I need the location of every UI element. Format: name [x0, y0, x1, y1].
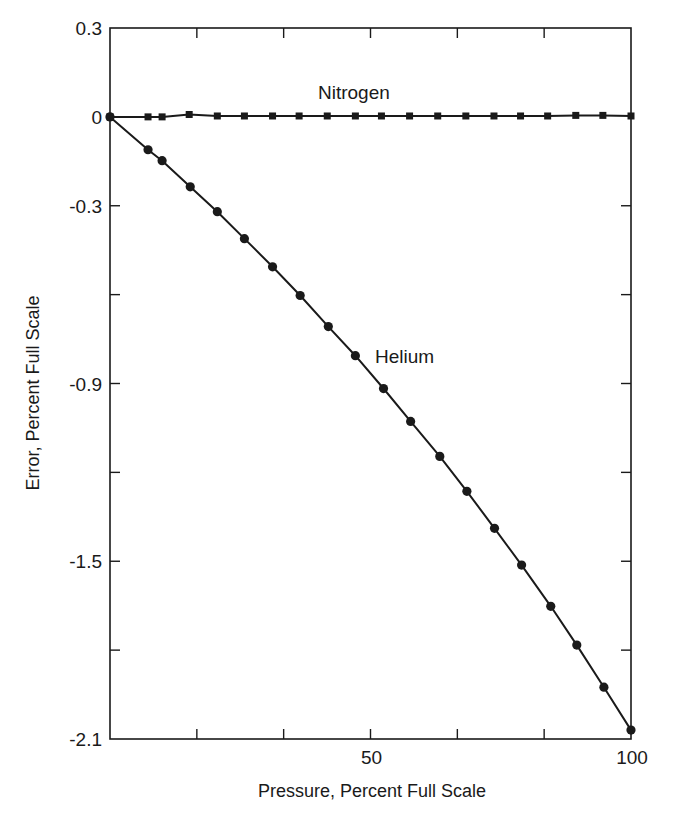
square-marker-icon [434, 112, 441, 119]
square-marker-icon [352, 112, 359, 119]
x-tick-label: 100 [616, 747, 648, 768]
square-marker-icon [490, 112, 497, 119]
square-marker-icon [406, 112, 413, 119]
square-marker-icon [462, 112, 469, 119]
square-marker-icon [214, 112, 221, 119]
circle-marker-icon [186, 182, 195, 191]
square-marker-icon [241, 112, 248, 119]
error-vs-pressure-chart: 50100 0.30-0.3-0.9-1.5-2.1 Nitrogen Heli… [0, 0, 675, 826]
square-marker-icon [628, 112, 635, 119]
circle-marker-icon [324, 322, 333, 331]
y-axis-title: Error, Percent Full Scale [23, 295, 43, 490]
circle-marker-icon [435, 452, 444, 461]
square-marker-icon [572, 112, 579, 119]
circle-marker-icon [158, 156, 167, 165]
y-tick-label: -1.5 [69, 551, 102, 572]
square-marker-icon [324, 112, 331, 119]
square-marker-icon [159, 113, 166, 120]
plot-frame [110, 28, 631, 739]
y-tick-label: -0.3 [69, 196, 102, 217]
circle-marker-icon [490, 524, 499, 533]
circle-marker-icon [296, 291, 305, 300]
square-marker-icon [145, 113, 152, 120]
y-axis-tick-labels: 0.30-0.3-0.9-1.5-2.1 [69, 18, 102, 750]
data-series [105, 111, 635, 735]
circle-marker-icon [351, 351, 360, 360]
circle-marker-icon [599, 683, 608, 692]
circle-marker-icon [406, 417, 415, 426]
circle-marker-icon [546, 602, 555, 611]
series-line [110, 117, 631, 730]
circle-marker-icon [105, 112, 114, 121]
series-nitrogen [107, 111, 635, 120]
square-marker-icon [378, 112, 385, 119]
circle-marker-icon [213, 207, 222, 216]
square-marker-icon [544, 112, 551, 119]
circle-marker-icon [379, 384, 388, 393]
x-tick-label: 50 [361, 747, 382, 768]
axis-ticks [110, 28, 631, 739]
x-axis-tick-labels: 50100 [361, 747, 648, 768]
y-tick-label: -2.1 [69, 729, 102, 750]
square-marker-icon [269, 112, 276, 119]
square-marker-icon [599, 112, 606, 119]
circle-marker-icon [572, 640, 581, 649]
circle-marker-icon [240, 234, 249, 243]
plot-border [110, 28, 631, 739]
y-tick-label: -0.9 [69, 374, 102, 395]
circle-marker-icon [462, 487, 471, 496]
circle-marker-icon [268, 262, 277, 271]
series-helium [105, 112, 635, 734]
square-marker-icon [186, 111, 193, 118]
circle-marker-icon [143, 145, 152, 154]
series-label-helium: Helium [375, 346, 434, 367]
square-marker-icon [296, 112, 303, 119]
y-tick-label: 0.3 [76, 18, 102, 39]
circle-marker-icon [517, 561, 526, 570]
square-marker-icon [517, 112, 524, 119]
x-axis-title: Pressure, Percent Full Scale [258, 781, 486, 801]
y-tick-label: 0 [91, 107, 102, 128]
series-label-nitrogen: Nitrogen [318, 82, 390, 103]
circle-marker-icon [626, 726, 635, 735]
